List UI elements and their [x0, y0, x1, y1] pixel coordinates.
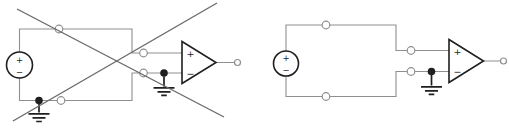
right-circuit: + − + − — [274, 21, 507, 100]
right-inverting-junction-dot — [428, 68, 436, 76]
left-noninverting-terminal — [140, 49, 148, 57]
left-opamp-plus-label: + — [187, 48, 195, 59]
circuit-figure: + − + − — [0, 0, 509, 130]
right-top-terminal — [322, 21, 330, 29]
left-source-plus-label: + — [16, 55, 23, 65]
right-noninverting-terminal — [407, 47, 415, 55]
left-bottom-terminal — [57, 97, 65, 105]
right-output-terminal — [501, 58, 507, 64]
right-source-plus-label: + — [282, 53, 289, 63]
right-inverting-terminal — [407, 68, 415, 76]
left-circuit: + − + − — [7, 3, 241, 122]
left-bottom-junction-dot — [35, 97, 43, 105]
right-opamp-plus-label: + — [454, 46, 462, 57]
right-ground-symbol — [421, 75, 442, 94]
left-opamp-minus-label: − — [187, 68, 195, 79]
left-output-terminal — [235, 60, 241, 66]
right-source-minus-label: − — [282, 65, 289, 75]
left-source-minus-label: − — [16, 67, 23, 77]
circuit-diagram-svg: + − + − — [0, 0, 509, 130]
right-opamp-minus-label: − — [454, 66, 462, 77]
right-bottom-terminal — [322, 93, 330, 101]
left-inverting-junction-dot — [160, 69, 168, 77]
